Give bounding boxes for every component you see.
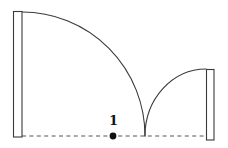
right-vertical-bar <box>207 70 215 141</box>
left-vertical-bar <box>14 12 23 138</box>
large-quarter-arc <box>22 12 145 136</box>
figure-canvas: 1 <box>0 0 228 148</box>
small-quarter-arc <box>145 69 206 136</box>
marked-point-dot <box>110 133 117 140</box>
point-label-one: 1 <box>109 114 118 127</box>
